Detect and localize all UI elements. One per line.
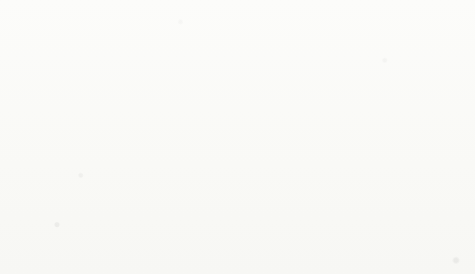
- y-axis-tick-label: 90: [0, 12, 44, 23]
- bars-container: [53, 18, 462, 238]
- y-axis-tick-label: 20: [0, 183, 44, 194]
- category-label-line1: Lesbians: [405, 243, 450, 255]
- x-axis-line: [53, 238, 463, 239]
- y-axis-tick-label: 60: [0, 85, 44, 96]
- category-label-line2: Cohabitors: [247, 256, 337, 269]
- y-axis-tick-label: 50: [0, 110, 44, 121]
- category-label-line1: Female: [273, 243, 310, 255]
- y-axis-tick: [48, 189, 53, 190]
- y-axis-tick-label: 10: [0, 208, 44, 219]
- bar-female-cohabitors: [276, 162, 308, 238]
- category-label-line1: Male: [211, 243, 235, 255]
- bar-lesbians: [412, 168, 444, 238]
- y-axis-tick: [48, 165, 53, 166]
- bar-male-cohabitors: [207, 157, 239, 238]
- y-axis-tick: [48, 214, 53, 215]
- y-axis-tick-label: 0: [0, 232, 44, 243]
- y-axis-tick-label: 80: [0, 36, 44, 47]
- y-axis-tick: [48, 67, 53, 68]
- y-axis-tick: [48, 91, 53, 92]
- category-label-line1: Husbands: [62, 243, 112, 255]
- chart-figure: Percent 0102030405060708090 HusbandsWive…: [0, 0, 475, 274]
- y-axis-label: Percent: [8, 62, 20, 142]
- y-axis-tick: [48, 238, 53, 239]
- category-label-line1: Gay Men: [337, 243, 382, 255]
- y-axis-tick: [48, 140, 53, 141]
- bar-gay-men: [344, 38, 376, 238]
- y-axis-tick: [48, 42, 53, 43]
- y-axis-line: [53, 18, 54, 239]
- bar-husbands: [71, 174, 103, 238]
- y-axis-tick: [48, 116, 53, 117]
- y-axis-tick-label: 30: [0, 159, 44, 170]
- y-axis-tick: [48, 18, 53, 19]
- y-axis-tick-label: 70: [0, 61, 44, 72]
- category-label-lesbians: Lesbians: [383, 243, 473, 256]
- bar-wives: [139, 187, 171, 238]
- y-axis-tick-label: 40: [0, 134, 44, 145]
- category-label-line1: Wives: [140, 243, 170, 255]
